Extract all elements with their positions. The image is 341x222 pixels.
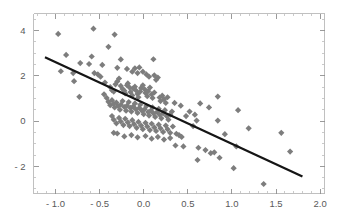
scatter-point: [150, 56, 156, 62]
scatter-point: [197, 100, 203, 106]
y-tick-label: 0: [20, 115, 25, 126]
scatter-point: [186, 108, 192, 114]
scatter-point: [114, 65, 120, 71]
scatter-point: [202, 147, 208, 153]
scatter-point: [112, 31, 118, 37]
scatter-point: [261, 181, 267, 187]
x-tick-label: 2.0: [313, 198, 326, 209]
scatter-point: [136, 64, 142, 70]
x-tick-label: 1.5: [269, 198, 282, 209]
scatter-point: [278, 130, 284, 136]
scatter-point: [99, 62, 105, 68]
scatter-point: [142, 133, 148, 139]
y-tick-label: 4: [20, 25, 25, 36]
scatter-point: [105, 44, 111, 50]
scatter-point: [128, 132, 134, 138]
scatter-point: [170, 123, 176, 129]
scatter-point: [215, 117, 221, 123]
scatter-point: [215, 93, 221, 99]
scatter-point: [118, 56, 124, 62]
fit-line: [45, 57, 302, 176]
regression-line: [45, 57, 302, 176]
scatter-point: [58, 68, 64, 74]
scatter-point: [222, 131, 228, 137]
x-tick-label: 0.5: [181, 198, 194, 209]
scatter-point: [124, 66, 130, 72]
scatter-point: [121, 133, 127, 139]
scatter-point: [89, 53, 95, 59]
scatter-point: [171, 100, 177, 106]
scatter-point: [180, 143, 186, 149]
scatter-point: [194, 157, 200, 163]
plot-canvas: - 1.0- 0.50.00.51.01.52.0 420- 2: [0, 0, 341, 222]
scatter-point: [134, 134, 140, 140]
scatter-point: [90, 26, 96, 32]
scatter-point: [155, 134, 161, 140]
scatter-point: [149, 136, 155, 142]
scatter-point: [172, 142, 178, 148]
scatter-point: [183, 113, 189, 119]
x-tick-label: - 1.0: [46, 198, 65, 209]
scatter-point: [246, 125, 252, 131]
scatter-point: [71, 78, 77, 84]
x-tick-label: - 0.5: [90, 198, 109, 209]
x-tick-label: 0.0: [137, 198, 150, 209]
scatter-plot-figure: - 1.0- 0.50.00.51.01.52.0 420- 2: [0, 0, 341, 222]
scatter-point: [287, 149, 293, 155]
scatter-markers: [55, 26, 293, 188]
y-axis-ticks: [34, 19, 325, 189]
scatter-point: [206, 104, 212, 110]
scatter-point: [192, 112, 198, 118]
scatter-point: [55, 31, 61, 37]
y-axis-tick-labels: 420- 2: [14, 25, 25, 172]
scatter-point: [77, 60, 83, 66]
scatter-point: [235, 107, 241, 113]
scatter-point: [195, 145, 201, 151]
scatter-point: [194, 117, 200, 123]
scatter-point: [161, 137, 167, 143]
y-tick-label: - 2: [14, 161, 25, 172]
scatter-point: [76, 94, 82, 100]
x-tick-label: 1.0: [225, 198, 238, 209]
scatter-point: [178, 103, 184, 109]
y-tick-label: 2: [20, 70, 25, 81]
scatter-point: [216, 155, 222, 161]
x-axis-ticks: [38, 14, 320, 194]
scatter-point: [86, 61, 92, 67]
scatter-point: [231, 165, 237, 171]
x-axis-tick-labels: - 1.0- 0.50.00.51.01.52.0: [46, 198, 327, 209]
scatter-point: [63, 52, 69, 58]
scatter-point: [167, 135, 173, 141]
